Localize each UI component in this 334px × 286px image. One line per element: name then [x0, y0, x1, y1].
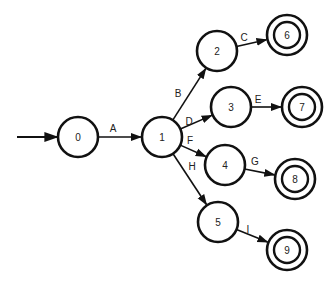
state-6: 6	[267, 15, 307, 55]
state-diagram: ABCDEFGHI 0123456789	[0, 0, 334, 286]
transition-e: E	[251, 94, 281, 107]
state-label: 6	[284, 30, 290, 41]
state-5: 5	[198, 202, 238, 242]
state-label: 7	[299, 102, 305, 113]
transition-label: I	[247, 224, 250, 235]
state-label: 1	[159, 132, 165, 143]
state-label: 2	[214, 46, 220, 57]
state-4: 4	[205, 145, 245, 185]
transition-f: F	[180, 135, 206, 156]
transition-b: B	[173, 69, 206, 120]
transition-label: D	[185, 116, 192, 127]
transition-c: C	[236, 32, 266, 47]
state-2: 2	[197, 31, 237, 71]
transition-g: G	[245, 156, 275, 175]
transition-h: H	[173, 154, 206, 205]
state-8: 8	[275, 159, 315, 199]
transition-label: G	[251, 156, 259, 167]
transition-label: E	[255, 94, 262, 105]
transition-label: A	[110, 123, 117, 134]
state-label: 4	[222, 160, 228, 171]
transitions: ABCDEFGHI	[98, 32, 281, 242]
transition-arrow	[245, 169, 275, 175]
state-1: 1	[142, 117, 182, 157]
state-7: 7	[282, 87, 322, 127]
state-0: 0	[58, 117, 98, 157]
state-label: 8	[292, 174, 298, 185]
state-label: 5	[215, 217, 221, 228]
state-3: 3	[211, 87, 251, 127]
transition-d: D	[180, 115, 211, 129]
transition-arrow	[237, 230, 268, 243]
transition-label: B	[175, 88, 182, 99]
state-label: 9	[284, 245, 290, 256]
transition-i: I	[237, 224, 268, 242]
state-label: 0	[75, 132, 81, 143]
state-9: 9	[267, 230, 307, 270]
transition-label: C	[240, 32, 247, 43]
transition-label: H	[188, 161, 195, 172]
transition-label: F	[187, 135, 193, 146]
transition-a: A	[98, 123, 141, 137]
transition-arrow	[180, 145, 206, 156]
state-label: 3	[228, 102, 234, 113]
